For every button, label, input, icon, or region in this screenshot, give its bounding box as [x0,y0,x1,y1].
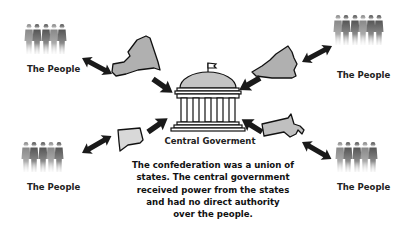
central-government-label: Central Goverment [160,136,260,146]
people-crowd-bottom-left [22,142,64,172]
new-york-state-icon [112,36,160,76]
people-crowd-top-right [334,15,384,45]
massachusetts-state-icon [262,114,304,137]
connecticut-state-icon [118,128,143,151]
arrow-people-state-bottom-left [79,131,114,158]
people-crowd-top-left [25,24,67,54]
virginia-state-icon [252,46,297,78]
people-label-bottom-left: The People [27,182,80,192]
people-label-top-right: The People [337,70,390,80]
caption-line: over the people. [118,208,308,220]
caption-line: The confederation was a union of [118,159,308,171]
people-crowd-bottom-right [336,142,378,172]
people-label-top-left: The People [27,64,80,74]
arrow-people-state-top-left [79,53,115,80]
arrow-state-central-bottom-left [144,113,172,138]
capitol-building-icon [171,63,245,131]
people-label-bottom-right: The People [337,182,390,192]
arrow-people-state-top-right [299,41,335,68]
caption-line: and had no direct authority [118,196,308,208]
caption-line: received power from the states [118,184,308,196]
caption-line: states. The central government [118,171,308,183]
caption-text: The confederation was a union of states.… [118,159,308,220]
arrow-state-central-top-left [149,73,177,98]
